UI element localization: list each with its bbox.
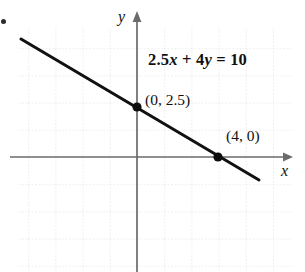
point-label-y-intercept: (0, 2.5) bbox=[145, 92, 190, 108]
equation-x-variable: x bbox=[169, 50, 177, 69]
linear-equation-figure: 2.5x + 4y = 10 (0, 2.5) (4, 0) y x bbox=[0, 0, 305, 272]
equation-y-variable: y bbox=[204, 50, 212, 69]
equation-annotation: 2.5x + 4y = 10 bbox=[148, 52, 247, 69]
point-marker-y-intercept bbox=[132, 102, 141, 111]
bullet-mark-icon bbox=[1, 19, 6, 24]
point-marker-x-intercept bbox=[213, 152, 222, 161]
equation-coefficient: 2.5 bbox=[148, 50, 169, 69]
equation-result: = 10 bbox=[212, 50, 247, 69]
x-axis-label: x bbox=[281, 163, 288, 179]
point-label-x-intercept: (4, 0) bbox=[226, 128, 260, 144]
equation-operator: + 4 bbox=[178, 50, 205, 69]
y-axis-label: y bbox=[118, 9, 125, 25]
